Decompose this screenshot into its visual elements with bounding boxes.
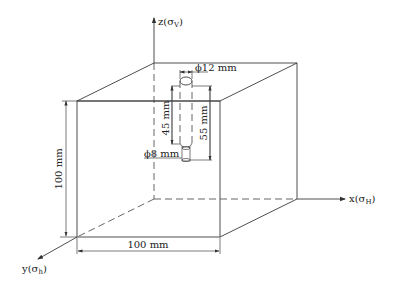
label-45: 45 mm xyxy=(160,100,171,135)
hidden-edges xyxy=(77,63,297,237)
dim-height: 100 mm xyxy=(53,101,77,237)
dim-55: 55 mm xyxy=(190,86,212,160)
dim-phi8: ϕ8 mm xyxy=(144,148,182,159)
dim-45: 45 mm xyxy=(160,86,180,144)
cube-diagram: ϕ12 mm 45 mm 55 mm ϕ8 mm 100 mm 100 mm xyxy=(0,0,394,287)
label-phi8: ϕ8 mm xyxy=(144,148,180,159)
svg-text:y(σh): y(σh) xyxy=(21,263,47,276)
y-axis-label: y(σh) xyxy=(21,263,47,276)
z-axis-label: z(σV) xyxy=(158,16,183,29)
dim-phi12: ϕ12 mm xyxy=(180,62,237,79)
cube-outline xyxy=(77,63,297,237)
label-55: 55 mm xyxy=(198,105,209,140)
label-height: 100 mm xyxy=(53,148,64,190)
svg-text:z(σV): z(σV) xyxy=(158,16,183,29)
y-axis xyxy=(38,237,77,259)
svg-text:x(σH): x(σH) xyxy=(349,193,375,206)
label-phi12: ϕ12 mm xyxy=(195,62,237,73)
x-axis-label: x(σH) xyxy=(349,193,375,206)
label-width: 100 mm xyxy=(127,239,169,250)
borehole xyxy=(180,77,192,162)
dim-width: 100 mm xyxy=(77,238,220,254)
